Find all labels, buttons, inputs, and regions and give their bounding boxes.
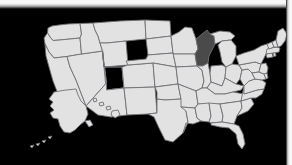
right-edge-strip — [286, 0, 292, 165]
state-iowa[interactable] — [173, 53, 197, 67]
state-new-york[interactable] — [236, 44, 270, 65]
state-michigan-lower[interactable] — [218, 40, 236, 67]
state-south-dakota[interactable] — [146, 36, 173, 55]
state-minnesota[interactable] — [171, 27, 198, 54]
hawaii-island-maui[interactable] — [106, 106, 111, 110]
top-edge-strip — [0, 0, 292, 9]
state-montana[interactable] — [93, 20, 146, 43]
state-florida[interactable] — [211, 122, 245, 149]
hawaii-island-kauai[interactable] — [93, 98, 97, 102]
alaska-aleutian-islands[interactable] — [30, 136, 52, 148]
state-colorado[interactable] — [122, 63, 155, 88]
state-maine[interactable] — [276, 28, 286, 47]
state-new-mexico[interactable] — [124, 87, 157, 115]
state-kansas[interactable] — [153, 63, 178, 87]
hawaii-island-oahu[interactable] — [99, 102, 104, 106]
map-canvas — [0, 8, 286, 165]
state-oklahoma[interactable] — [155, 84, 181, 100]
alaska-panhandle[interactable] — [85, 120, 93, 127]
us-states-map[interactable] — [0, 8, 286, 165]
screenshot-root — [0, 0, 292, 165]
